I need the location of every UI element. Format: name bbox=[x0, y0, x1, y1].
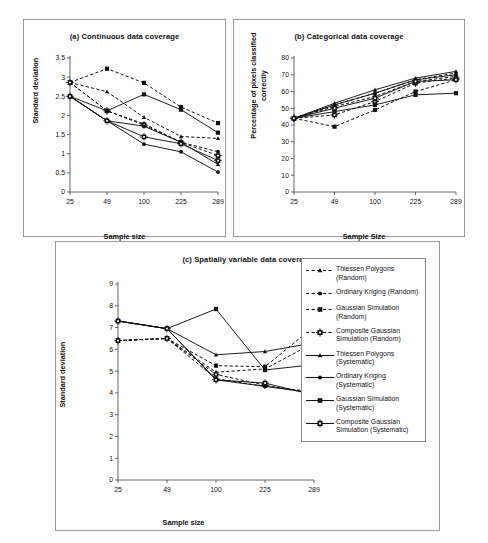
crossed-square-marker bbox=[114, 317, 122, 325]
legend-item: Thiessen Polygons (Systematic) bbox=[305, 350, 421, 367]
legend-item: Gaussian Simulation (Systematic) bbox=[305, 395, 421, 412]
legend-item: Composite Gaussian Simulation (Systemati… bbox=[305, 418, 421, 435]
square-marker bbox=[214, 364, 218, 368]
legend-key-square bbox=[305, 395, 335, 406]
circle-marker bbox=[216, 170, 220, 174]
circle-marker bbox=[142, 142, 146, 146]
square-marker bbox=[318, 398, 323, 403]
y-tick-label: 2 bbox=[109, 433, 113, 440]
square-marker bbox=[216, 121, 220, 125]
crossed-square-marker bbox=[316, 419, 324, 427]
x-tick-label: 25 bbox=[114, 486, 122, 493]
triangle-marker bbox=[105, 89, 109, 93]
chart-a-svg: 00.511.522.533.52549100225289 bbox=[70, 56, 242, 232]
crossed-square-marker bbox=[66, 79, 74, 87]
legend-key-circle bbox=[305, 288, 335, 299]
panel-spatially-variable: (c) Spatially variable data coverage 012… bbox=[55, 241, 440, 531]
square-marker bbox=[413, 93, 417, 97]
series-line bbox=[114, 317, 318, 399]
square-marker bbox=[142, 81, 146, 85]
chart-b-ylabel: Percentage of pixels classified correctl… bbox=[249, 31, 268, 141]
x-tick-label: 25 bbox=[290, 198, 298, 205]
series-line bbox=[66, 79, 222, 160]
y-tick-label: 10 bbox=[281, 172, 289, 179]
legend-item-label: Composite Gaussian Simulation (Random) bbox=[335, 327, 421, 344]
square-marker bbox=[454, 91, 458, 95]
legend-item: Ordinary Kriging (Random) bbox=[305, 288, 421, 299]
chart-c-ylabel: Standard deviation bbox=[58, 320, 68, 430]
panel-categorical: (b) Categorical data coverage 0102030405… bbox=[233, 19, 465, 237]
triangle-marker bbox=[216, 136, 220, 140]
x-tick-label: 100 bbox=[138, 198, 150, 205]
square-marker bbox=[142, 92, 146, 96]
chart-c-xlabel: Sample size bbox=[56, 518, 311, 527]
series-line bbox=[116, 319, 316, 357]
y-tick-label: 50 bbox=[281, 105, 289, 112]
x-tick-label: 289 bbox=[212, 198, 224, 205]
crossed-square-marker bbox=[316, 328, 324, 336]
square-marker bbox=[332, 125, 336, 129]
legend-key-crossed-square bbox=[305, 418, 335, 429]
x-tick-label: 225 bbox=[410, 198, 422, 205]
chart-a-plot: 00.511.522.533.52549100225289 bbox=[70, 56, 218, 206]
crossed-square-marker bbox=[290, 115, 298, 123]
circle-marker bbox=[318, 376, 322, 380]
y-tick-label: 9 bbox=[109, 280, 113, 287]
y-tick-label: 6 bbox=[109, 346, 113, 353]
chart-legend: Thiessen Polygons (Random)Ordinary Krigi… bbox=[301, 258, 426, 442]
square-marker bbox=[373, 108, 377, 112]
panel-continuous: (a) Continuous data coverage 00.511.522.… bbox=[23, 19, 226, 237]
chart-c-plot: 01234567892549100225289 bbox=[118, 282, 314, 494]
legend-key-circle bbox=[305, 372, 335, 383]
y-tick-label: 2.5 bbox=[55, 93, 65, 100]
x-tick-label: 225 bbox=[259, 486, 271, 493]
legend-item-label: Ordinary Kriging (Systematic) bbox=[335, 372, 421, 389]
square-marker bbox=[373, 103, 377, 107]
square-marker bbox=[105, 67, 109, 71]
chart-b-svg: 010203040506070802549100225289 bbox=[294, 56, 480, 232]
crossed-square-marker bbox=[114, 337, 122, 345]
crossed-square-marker bbox=[163, 335, 171, 343]
legend-item-label: Gaussian Simulation (Random) bbox=[335, 304, 421, 321]
legend-key-crossed-square bbox=[305, 327, 335, 338]
legend-item-label: Composite Gaussian Simulation (Systemati… bbox=[335, 418, 421, 435]
y-tick-label: 3.5 bbox=[55, 54, 65, 61]
crossed-square-marker bbox=[103, 117, 111, 125]
series-line bbox=[116, 324, 316, 368]
x-tick-label: 49 bbox=[163, 486, 171, 493]
x-tick-label: 49 bbox=[331, 198, 339, 205]
square-marker bbox=[179, 108, 183, 112]
x-tick-label: 100 bbox=[369, 198, 381, 205]
y-tick-label: 2 bbox=[61, 112, 65, 119]
triangle-marker bbox=[454, 69, 458, 73]
x-tick-label: 289 bbox=[450, 198, 462, 205]
y-tick-label: 0 bbox=[285, 188, 289, 195]
legend-item: Composite Gaussian Simulation (Random) bbox=[305, 327, 421, 344]
chart-a-xlabel: Sample size bbox=[24, 232, 225, 241]
crossed-square-marker bbox=[452, 76, 460, 84]
legend-item: Ordinary Kriging (Systematic) bbox=[305, 372, 421, 389]
circle-marker bbox=[179, 150, 183, 154]
legend-item-label: Gaussian Simulation (Systematic) bbox=[335, 395, 421, 412]
y-tick-label: 40 bbox=[281, 121, 289, 128]
x-tick-label: 100 bbox=[210, 486, 222, 493]
legend-item-label: Ordinary Kriging (Random) bbox=[335, 288, 418, 297]
y-tick-label: 4 bbox=[109, 389, 113, 396]
y-tick-label: 7 bbox=[109, 324, 113, 331]
figure-page: (a) Continuous data coverage 00.511.522.… bbox=[0, 0, 488, 543]
square-marker bbox=[263, 368, 267, 372]
y-tick-label: 3 bbox=[109, 411, 113, 418]
crossed-square-marker bbox=[66, 93, 74, 101]
y-tick-label: 70 bbox=[281, 71, 289, 78]
crossed-square-marker bbox=[140, 133, 148, 141]
legend-key-triangle bbox=[305, 265, 335, 276]
chart-b-plot: 010203040506070802549100225289 bbox=[294, 56, 456, 206]
y-tick-label: 60 bbox=[281, 88, 289, 95]
y-tick-label: 0 bbox=[109, 476, 113, 483]
legend-item-label: Thiessen Polygons (Systematic) bbox=[335, 350, 421, 367]
y-tick-label: 1 bbox=[61, 150, 65, 157]
legend-item: Thiessen Polygons (Random) bbox=[305, 265, 421, 282]
square-marker bbox=[105, 109, 109, 113]
square-marker bbox=[214, 307, 218, 311]
y-tick-label: 30 bbox=[281, 138, 289, 145]
